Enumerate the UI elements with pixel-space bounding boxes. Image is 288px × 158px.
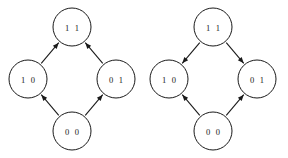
node-R-00[interactable]: 0 0 [194,112,232,150]
edge-R-11-to-R-01 [226,43,244,64]
node-label: 1 1 [206,23,221,33]
edge-L-00-to-L-01 [85,95,103,116]
node-label: 1 0 [21,75,36,85]
edge-L-00-to-L-10 [41,95,59,116]
node-label: 0 0 [206,127,221,137]
node-L-01[interactable]: 0 1 [97,60,135,98]
node-L-10[interactable]: 1 0 [9,60,47,98]
node-L-00[interactable]: 0 0 [53,112,91,150]
nodes-layer: 1 11 00 10 01 11 00 10 0 [9,8,276,150]
node-R-11[interactable]: 1 1 [194,8,232,46]
edges-layer [41,43,244,116]
node-R-01[interactable]: 0 1 [238,60,276,98]
node-label: 0 1 [250,75,265,85]
node-R-10[interactable]: 1 0 [150,60,188,98]
node-L-11[interactable]: 1 1 [53,8,91,46]
edge-L-01-to-L-11 [85,43,103,64]
node-label: 1 1 [65,23,80,33]
edge-L-10-to-L-11 [41,43,59,64]
state-diagram-pair: 1 11 00 10 01 11 00 10 0 [0,0,288,158]
node-label: 0 0 [65,127,80,137]
edge-R-11-to-R-10 [182,43,200,64]
diagram-canvas: 1 11 00 10 01 11 00 10 0 [0,0,288,158]
node-label: 1 0 [162,75,177,85]
edge-R-00-to-R-01 [226,95,244,116]
node-label: 0 1 [109,75,124,85]
edge-R-00-to-R-10 [182,95,200,116]
